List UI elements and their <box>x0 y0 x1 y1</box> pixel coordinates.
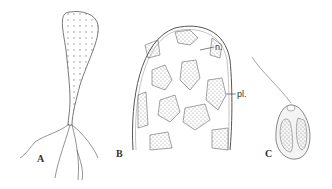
panel-c-zoospore <box>252 57 310 159</box>
panel-b-label: B <box>116 148 123 159</box>
rhizoids <box>20 124 98 180</box>
flagellum <box>252 57 291 103</box>
figure-canvas <box>0 0 332 189</box>
annotation-plastid: pl. <box>237 89 247 99</box>
panel-a-label: A <box>37 153 44 164</box>
panel-c-label: C <box>265 148 272 159</box>
annotation-nucleus: n. <box>215 42 223 52</box>
panel-a-cell <box>20 12 98 180</box>
